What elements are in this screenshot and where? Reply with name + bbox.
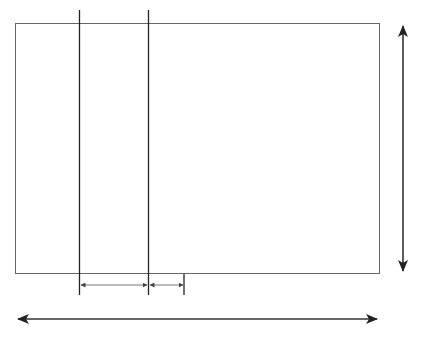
stimulus-frame xyxy=(16,24,380,274)
diagram-canvas xyxy=(0,0,422,358)
